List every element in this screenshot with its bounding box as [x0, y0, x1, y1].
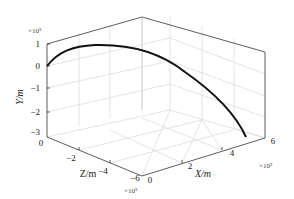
y-exponent: ×10⁵	[28, 27, 42, 35]
x-tick-2: 2	[188, 161, 193, 171]
z-exponent: ×10⁵	[124, 187, 138, 195]
z-tick-minus6: −6	[130, 173, 140, 183]
y-tick-minus3: −3	[30, 127, 40, 137]
x-tick-6: 6	[271, 136, 276, 146]
y-tick-minus1: −1	[30, 83, 40, 93]
x-tick-0: 0	[148, 175, 153, 185]
y-tick-minus2: −2	[30, 107, 40, 117]
z-tick-0: 0	[39, 138, 44, 148]
x-tick-4: 4	[230, 148, 235, 158]
trajectory-curve	[47, 45, 246, 137]
x-exponent: ×10⁵	[259, 162, 273, 170]
chart-3d: 1 0 −1 −2 −3 ×10⁵ Y/m 0 −2 −4 −6 Z/m ×10…	[0, 0, 294, 199]
y-tick-0: 0	[36, 61, 41, 71]
z-tick-minus2: −2	[66, 153, 76, 163]
z-axis-label: Z/m	[80, 168, 97, 179]
tick-marks	[47, 44, 222, 163]
x-axis-label: X/m	[194, 168, 211, 179]
y-axis-label: Y/m	[14, 89, 25, 105]
y-tick-1: 1	[36, 39, 41, 49]
z-tick-minus4: −4	[98, 166, 108, 176]
